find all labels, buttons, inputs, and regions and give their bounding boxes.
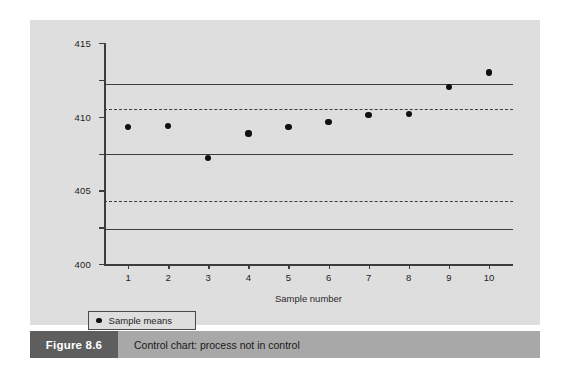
figure-number: Figure 8.6	[30, 331, 118, 358]
data-point	[125, 124, 131, 130]
y-tick-label: 415	[75, 38, 91, 49]
x-tick-label: 4	[246, 272, 251, 283]
filled-circle-icon	[96, 318, 102, 324]
x-tick-label: 1	[125, 272, 130, 283]
legend: Sample means	[88, 311, 196, 330]
data-point	[245, 130, 251, 136]
x-tick-label: 10	[484, 272, 495, 283]
x-tick	[329, 264, 330, 269]
x-tick	[168, 264, 169, 269]
y-tick: 385	[99, 264, 104, 265]
x-tick-label: 3	[206, 272, 211, 283]
x-tick	[449, 264, 450, 269]
figure-panel: 415410405400395390385 12345678910 Sample…	[30, 20, 540, 325]
x-tick	[489, 264, 490, 269]
x-axis	[104, 264, 513, 266]
y-tick: 410	[99, 80, 104, 81]
x-axis-title: Sample number	[104, 293, 513, 304]
x-tick-label: 8	[406, 272, 411, 283]
data-point	[205, 155, 211, 161]
data-point	[165, 123, 171, 129]
y-tick: 405	[99, 117, 104, 118]
y-tick-label: 410	[75, 111, 91, 122]
x-tick	[288, 264, 289, 269]
data-point	[325, 119, 331, 125]
data-point	[365, 112, 371, 118]
lower-warning-limit	[104, 201, 513, 202]
data-point	[406, 111, 412, 117]
data-point	[285, 124, 291, 130]
upper-warning-limit	[104, 109, 513, 110]
plot-area: 415410405400395390385 12345678910 Sample…	[104, 43, 513, 264]
y-tick-label: 400	[75, 259, 91, 270]
x-tick	[409, 264, 410, 269]
x-tick	[208, 264, 209, 269]
x-tick-label: 7	[366, 272, 371, 283]
y-tick: 415	[99, 43, 104, 44]
data-point	[486, 69, 492, 75]
x-tick	[248, 264, 249, 269]
y-tick-label: 405	[75, 185, 91, 196]
legend-label: Sample means	[109, 315, 172, 326]
y-tick: 395	[99, 190, 104, 191]
x-tick-label: 9	[446, 272, 451, 283]
upper-control-limit	[104, 84, 513, 85]
x-tick	[369, 264, 370, 269]
x-tick-label: 2	[166, 272, 171, 283]
data-point	[446, 84, 452, 90]
lower-control-limit	[104, 229, 513, 230]
x-tick	[128, 264, 129, 269]
y-tick: 390	[99, 227, 104, 228]
x-tick-label: 5	[286, 272, 291, 283]
centre-line	[104, 154, 513, 155]
figure-caption-bar: Figure 8.6 Control chart: process not in…	[30, 331, 540, 358]
figure-caption-text: Control chart: process not in control	[118, 331, 540, 358]
x-tick-label: 6	[326, 272, 331, 283]
